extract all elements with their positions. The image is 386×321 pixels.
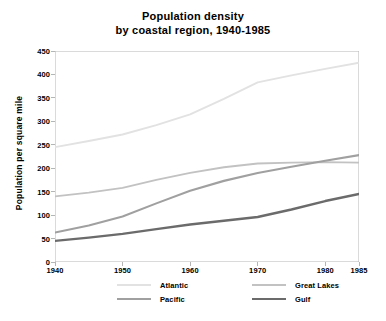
legend-swatch-atlantic [117,284,151,286]
x-tick-mark [257,262,258,266]
x-tick-label: 1940 [46,266,63,275]
x-tick-mark [190,262,191,266]
x-tick-mark [325,262,326,266]
legend-item-gulf[interactable]: Gulf [252,293,310,305]
series-line-gulf [55,194,359,241]
y-tick-label: 450 [14,47,50,56]
series-line-atlantic [55,63,359,147]
chart-title-line-2: by coastal region, 1940-1985 [0,23,386,37]
plot-area [55,51,359,262]
chart-legend: Atlantic Pacific Great Lakes Gulf [0,279,386,315]
legend-swatch-pacific [117,298,151,300]
x-tick-label: 1960 [182,266,199,275]
x-tick-label: 1950 [114,266,131,275]
series-line-pacific [55,155,359,232]
chart-container: Population density by coastal region, 19… [0,0,386,321]
x-tick-mark [359,262,360,266]
y-axis-label: Population per square mile [14,68,24,238]
legend-item-atlantic[interactable]: Atlantic [117,279,188,291]
x-tick-label: 1985 [350,266,367,275]
legend-swatch-great-lakes [252,284,286,286]
legend-label-pacific: Pacific [160,295,185,304]
x-tick-mark [122,262,123,266]
plot-svg [55,51,359,262]
x-tick-mark [55,262,56,266]
chart-title-line-1: Population density [0,9,386,23]
series-line-great-lakes [55,162,359,196]
legend-label-atlantic: Atlantic [160,281,188,290]
legend-item-pacific[interactable]: Pacific [117,293,185,305]
chart-title: Population density by coastal region, 19… [0,9,386,37]
legend-swatch-gulf [252,298,286,300]
legend-item-great-lakes[interactable]: Great Lakes [252,279,339,291]
y-tick-label: 0 [14,258,50,267]
legend-label-great-lakes: Great Lakes [295,281,339,290]
x-tick-label: 1970 [249,266,266,275]
x-tick-label: 1980 [317,266,334,275]
legend-label-gulf: Gulf [295,295,310,304]
